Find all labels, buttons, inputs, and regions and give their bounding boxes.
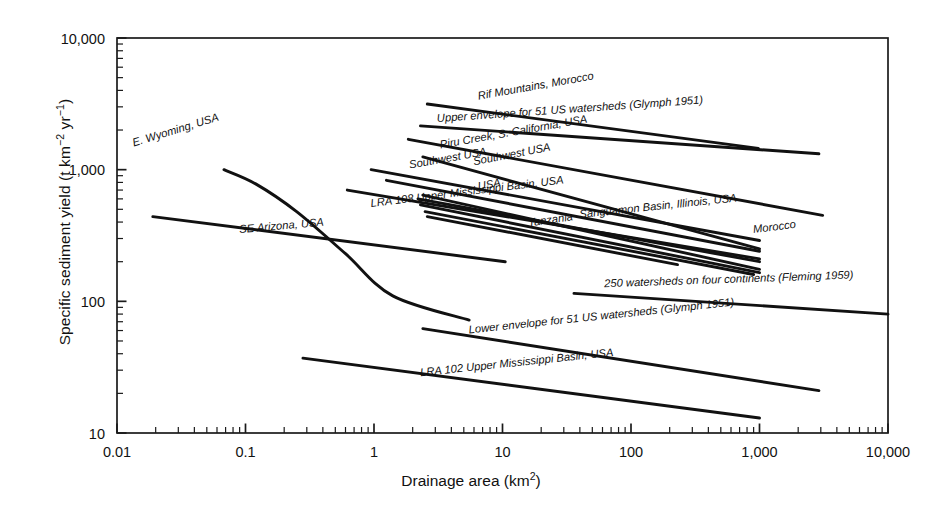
- y-axis-title-text: Specific sediment yield (t km: [56, 146, 73, 345]
- y-tick-label: 10: [89, 426, 105, 442]
- series-label: 250 watersheds on four continents (Flemi…: [603, 269, 854, 290]
- series-line: [303, 358, 760, 418]
- x-tick-label: 10,000: [866, 444, 910, 460]
- x-axis-ticks: 0.010.11101001,00010,000: [103, 424, 910, 461]
- y-tick-label: 100: [81, 294, 105, 310]
- y-axis-title-exponent-1: −2: [54, 134, 66, 146]
- x-axis-title-text: Drainage area (km: [401, 472, 529, 489]
- x-tick-label: 0.1: [235, 444, 255, 460]
- chart-figure: 0.010.11101001,00010,000 101001,00010,00…: [0, 0, 942, 512]
- sediment-yield-log-log-plot: 0.010.11101001,00010,000 101001,00010,00…: [0, 0, 942, 512]
- y-axis-title-tail: ): [56, 99, 73, 104]
- y-axis-title-mid: yr: [56, 116, 73, 134]
- series-line: [153, 217, 505, 262]
- x-axis-title: Drainage area (km2): [0, 470, 942, 490]
- series-label: Morocco: [752, 218, 796, 235]
- series-label: E. Wyoming, USA: [131, 111, 220, 149]
- x-tick-label: 10: [494, 444, 510, 460]
- y-axis-title-exponent-2: −1: [54, 104, 66, 116]
- series-label: Rif Mountains, Morocco: [477, 69, 595, 101]
- y-tick-label: 1,000: [69, 162, 105, 178]
- series-line: [425, 212, 753, 275]
- series-label: LRA 102 Upper Mississippi Basin, USA: [419, 346, 613, 378]
- x-tick-label: 1: [370, 444, 378, 460]
- y-axis-title: Specific sediment yield (t km−2 yr−1): [54, 42, 74, 402]
- x-tick-label: 0.01: [103, 444, 131, 460]
- series-label: Lower envelope for 51 US watersheds (Gly…: [468, 296, 735, 336]
- x-tick-label: 100: [619, 444, 643, 460]
- x-tick-label: 1,000: [741, 444, 777, 460]
- series-label: Sanguamon Basin, Illinois, USA: [579, 191, 737, 219]
- x-axis-title-tail: ): [536, 472, 541, 489]
